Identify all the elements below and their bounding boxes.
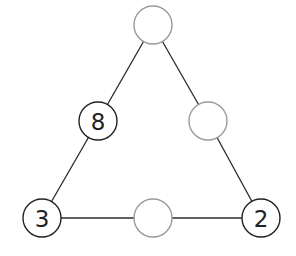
edges xyxy=(42,25,261,218)
nodes: 8 3 2 xyxy=(23,6,280,237)
node-top[interactable] xyxy=(134,6,172,44)
node-bottom-left-label: 3 xyxy=(35,206,50,232)
node-bottom-right-label: 2 xyxy=(254,206,269,232)
node-bottom-right[interactable]: 2 xyxy=(242,199,280,237)
node-left-mid-label: 8 xyxy=(91,109,106,135)
triangle-diagram: 8 3 2 xyxy=(0,0,296,256)
node-bottom-mid[interactable] xyxy=(134,199,172,237)
node-left-mid[interactable]: 8 xyxy=(79,102,117,140)
node-bottom-left[interactable]: 3 xyxy=(23,199,61,237)
node-right-mid[interactable] xyxy=(189,102,227,140)
